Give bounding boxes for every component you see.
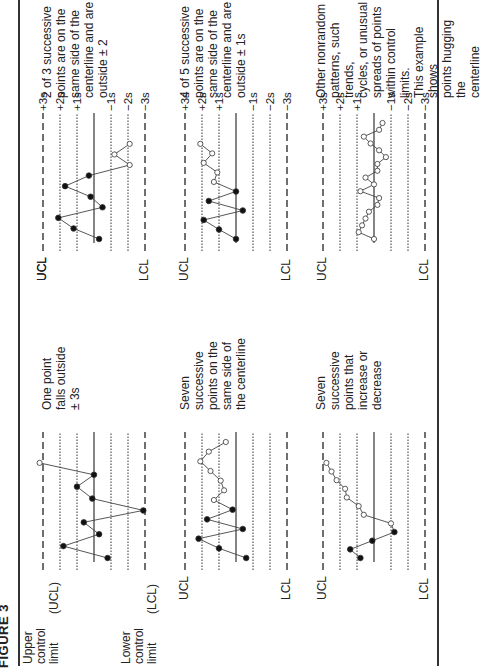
open-data-point [366, 209, 371, 214]
sigma-label: −2s [264, 92, 276, 111]
open-data-point [215, 170, 220, 175]
description-line: cycles, or unusual [356, 0, 370, 98]
ucl-label: UCL [315, 576, 329, 600]
open-data-point [222, 488, 227, 493]
open-data-point [211, 179, 216, 184]
open-data-point [210, 151, 215, 156]
bottom-rule-divider [437, 0, 439, 666]
description-line: This example shows [412, 0, 440, 98]
filled-data-point [71, 226, 77, 232]
open-data-point [360, 223, 365, 228]
filled-data-point [105, 555, 111, 561]
filled-data-point [230, 507, 236, 513]
control-chart-1 [38, 392, 150, 570]
sigma-label: −1s [247, 92, 259, 111]
open-data-point [211, 497, 216, 502]
description-line: points hugging the [440, 0, 468, 98]
open-data-point [334, 478, 339, 483]
filled-data-point [90, 496, 96, 502]
filled-data-point [61, 543, 67, 549]
description-line: spreads of points [370, 0, 384, 98]
description-line: points are on the [54, 2, 68, 98]
open-data-point [201, 160, 206, 165]
chart-rule-description: Other nonrandompatterns, such trends,cyc… [314, 0, 482, 98]
filled-data-point [240, 526, 246, 532]
lcl-label: LCL [417, 578, 431, 600]
description-line: decrease [370, 351, 384, 410]
ucl-label: UCL [177, 576, 191, 600]
description-line: points are on the [192, 2, 206, 98]
sigma-label: −3s [281, 92, 293, 111]
open-data-point [218, 478, 223, 483]
data-series-line [40, 463, 144, 558]
lcl-label: LCL [137, 259, 151, 281]
description-line: same side of the [206, 2, 220, 98]
control-chart-2 [180, 392, 292, 570]
description-line: One point [40, 347, 54, 410]
open-data-point [383, 155, 388, 160]
open-data-point [329, 469, 334, 474]
lcl-label: LCL [279, 578, 293, 600]
filled-data-point [100, 204, 106, 210]
filled-data-point [96, 531, 102, 537]
filled-data-point [216, 546, 222, 552]
open-data-point [375, 202, 380, 207]
open-data-point [377, 127, 382, 132]
ucl-label: UCL [177, 257, 191, 281]
chart-rule-description: 4 of 5 successivepoints are on thesame s… [178, 2, 248, 98]
open-data-point [368, 141, 373, 146]
chart-rule-description: 2 of 3 successivepoints are on thesame s… [40, 2, 110, 98]
chart-rule-description: One pointfalls outside± 3s [40, 347, 82, 410]
filled-data-point [88, 194, 94, 200]
filled-data-point [233, 236, 239, 242]
description-line: centerline and are [82, 2, 96, 98]
filled-data-point [347, 547, 353, 553]
description-line: same side of the [68, 2, 82, 98]
filled-data-point [370, 538, 376, 544]
description-line: within control limits. [384, 0, 412, 98]
filled-data-point [74, 484, 80, 490]
open-data-point [198, 141, 203, 146]
figure-title: FIGURE 3 [0, 604, 11, 668]
filled-data-point [86, 173, 92, 179]
filled-data-point [91, 472, 97, 478]
sigma-label: −2s [122, 92, 134, 111]
open-data-point [127, 162, 132, 167]
control-chart-3 [318, 392, 430, 570]
filled-data-point [141, 508, 147, 514]
description-line: falls outside [54, 347, 68, 410]
open-data-point [343, 486, 348, 491]
ucl-label: UCL [35, 257, 49, 281]
description-line: Seven [314, 351, 328, 410]
open-data-point [363, 175, 368, 180]
open-data-point [344, 495, 349, 500]
filled-data-point [81, 520, 87, 526]
filled-data-point [201, 217, 207, 223]
description-line: same side of [220, 338, 234, 410]
open-data-point [377, 195, 382, 200]
open-data-point [375, 168, 380, 173]
filled-data-point [240, 208, 246, 214]
control-chart-4: +3s+2s+1s−1s−2s−3s [38, 73, 150, 251]
open-data-point [198, 459, 203, 464]
open-data-point [356, 504, 361, 509]
description-line: outside ± 2 [96, 2, 110, 98]
description-line: Seven [178, 338, 192, 410]
legend-lower-control-limit: Lower control limit [120, 628, 159, 664]
data-series-line [199, 442, 247, 558]
open-data-point [223, 439, 228, 444]
filled-data-point [358, 555, 364, 561]
top-rule-divider [18, 0, 20, 666]
legend-upper-control-limit: Upper control limit [22, 628, 61, 664]
filled-data-point [196, 536, 202, 542]
description-line: points on the [206, 338, 220, 410]
description-line: centerline and are [220, 2, 234, 98]
filled-data-point [62, 183, 68, 189]
open-data-point [375, 161, 380, 166]
open-data-point [358, 189, 363, 194]
description-line: centerline [468, 0, 482, 98]
description-line: the centerline [234, 338, 248, 410]
open-data-point [356, 230, 361, 235]
chart-rule-description: Sevensuccessivepoints on thesame side of… [178, 338, 248, 410]
